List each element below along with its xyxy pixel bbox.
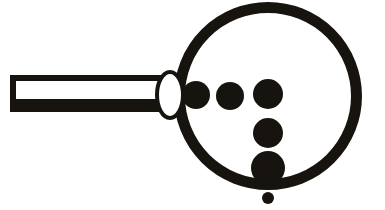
dot-left [182, 81, 210, 109]
handle-bottom-band [10, 99, 172, 112]
handle-top-stroke [10, 75, 172, 81]
magnifying-glass-illustration [0, 0, 385, 210]
dot-column-top [253, 79, 283, 109]
dot-middle [216, 82, 244, 110]
dot-detached [262, 192, 274, 204]
handle-collar [157, 72, 183, 118]
handle-end-cap [10, 75, 16, 112]
image-canvas [0, 0, 385, 210]
dot-column-bottom [251, 151, 285, 185]
dot-column-middle [253, 118, 283, 148]
